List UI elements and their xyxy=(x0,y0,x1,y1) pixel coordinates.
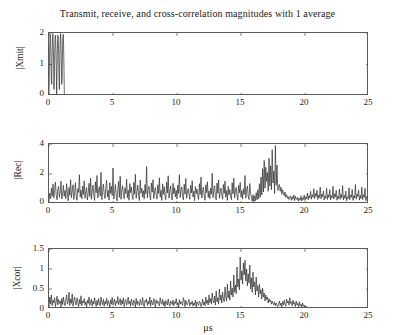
plot-area-xcor xyxy=(48,248,368,308)
ylabel-rec: |Rec| xyxy=(13,140,23,200)
trace-rec xyxy=(49,146,368,202)
xtick-xmit-1: 5 xyxy=(102,97,122,107)
ytick-xmit-2: 2 xyxy=(24,27,44,37)
ytick-xcor-3: 1.5 xyxy=(20,243,44,253)
trace-xcor xyxy=(49,257,368,308)
xtick-rec-4: 20 xyxy=(294,205,314,215)
xtick-rec-3: 15 xyxy=(230,205,250,215)
panel-xcor: |Xcor| 0 0.5 1 1.5 0 5 10 15 20 25 μs xyxy=(0,225,395,335)
ytick-xmit-1: 1 xyxy=(24,58,44,68)
figure-container: Transmit, receive, and cross-correlation… xyxy=(0,0,395,335)
xtick-xcor-2: 10 xyxy=(166,310,186,320)
plot-area-xmit xyxy=(48,32,368,95)
plot-svg-xcor xyxy=(49,249,368,308)
xtick-xcor-3: 15 xyxy=(230,310,250,320)
ytick-rec-2: 4 xyxy=(24,138,44,148)
trace-xmit xyxy=(49,34,368,95)
xtick-xmit-0: 0 xyxy=(38,97,58,107)
panel-rec: |Rec| 0 2 4 0 5 10 15 20 25 xyxy=(0,115,395,225)
xtick-xcor-0: 0 xyxy=(38,310,58,320)
plot-svg-xmit xyxy=(49,33,368,95)
xtick-rec-5: 25 xyxy=(358,205,378,215)
xtick-rec-1: 5 xyxy=(102,205,122,215)
xtick-xmit-4: 20 xyxy=(294,97,314,107)
xtick-xmit-2: 10 xyxy=(166,97,186,107)
xtick-xcor-4: 20 xyxy=(294,310,314,320)
plot-area-rec xyxy=(48,143,368,203)
xtick-rec-0: 0 xyxy=(38,205,58,215)
xtick-xmit-3: 15 xyxy=(230,97,250,107)
ytick-xcor-2: 1 xyxy=(20,263,44,273)
panel-xmit: |Xmit| 0 1 2 0 5 10 15 20 25 xyxy=(0,0,395,115)
xaxis-label: μs xyxy=(168,322,248,333)
ytick-xcor-1: 0.5 xyxy=(20,283,44,293)
xtick-xcor-5: 25 xyxy=(358,310,378,320)
ytick-rec-1: 2 xyxy=(24,167,44,177)
plot-svg-rec xyxy=(49,144,368,203)
xtick-rec-2: 10 xyxy=(166,205,186,215)
ylabel-xcor: |Xcor| xyxy=(12,248,22,308)
xtick-xmit-5: 25 xyxy=(358,97,378,107)
xtick-xcor-1: 5 xyxy=(102,310,122,320)
